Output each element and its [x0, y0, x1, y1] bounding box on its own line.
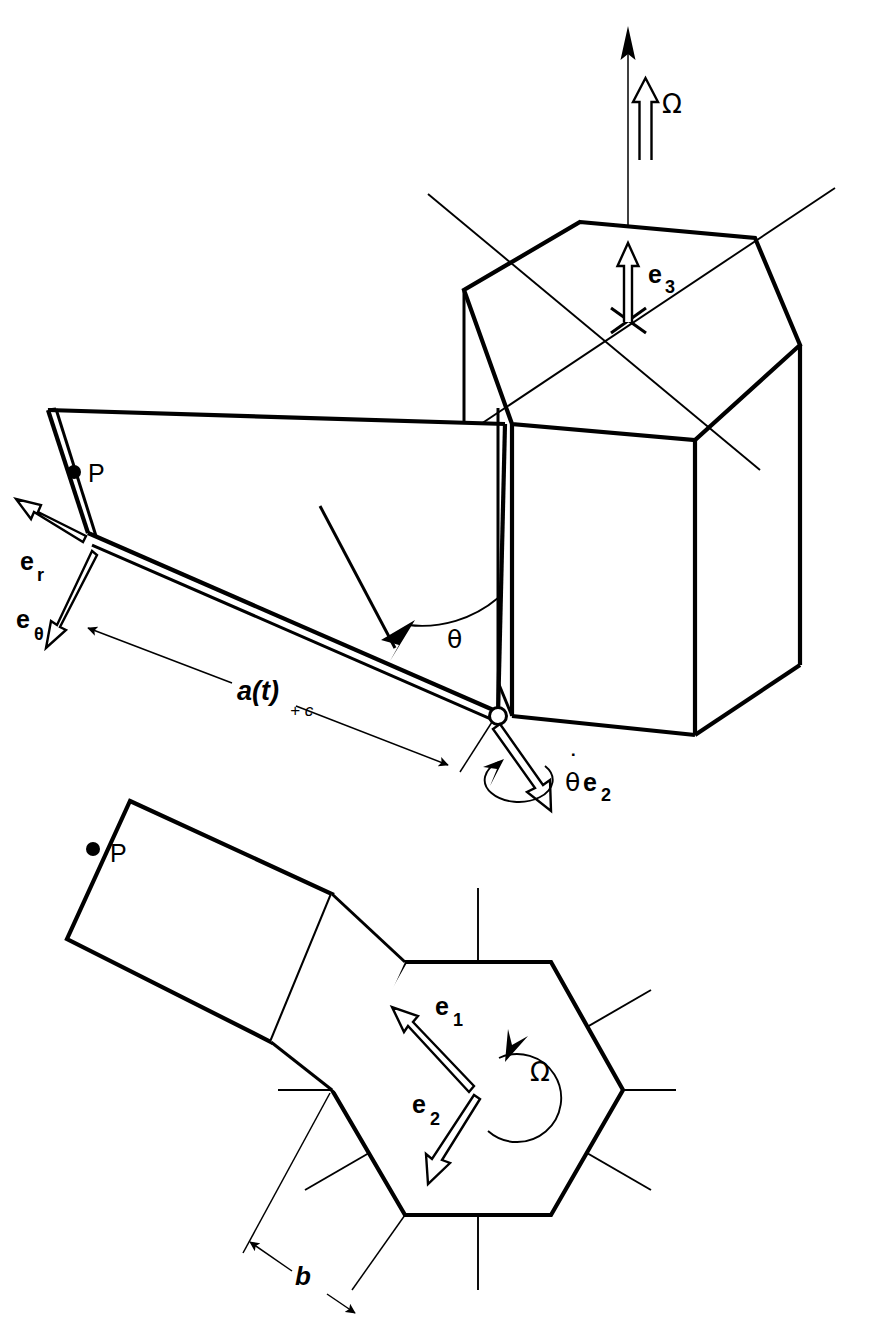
point-p-label-plan: P	[110, 839, 127, 867]
e2-subscript: 2	[430, 1109, 440, 1129]
panel-left-cap-top	[48, 409, 56, 410]
omega-vector-top	[633, 78, 658, 160]
e1-subscript: 1	[453, 1010, 463, 1030]
b-ext-line-right	[352, 1215, 405, 1290]
etheta-subscript: θ	[34, 624, 44, 644]
er-label: e	[20, 547, 34, 575]
er-vector	[16, 499, 86, 542]
etheta-vector	[46, 551, 97, 648]
panel-length-label: a(t)	[237, 676, 279, 706]
omega-label-top: Ω	[662, 89, 682, 119]
figure-root: Ω	[0, 0, 870, 1344]
e3-label: e	[648, 260, 662, 288]
omega-label-plan: Ω	[530, 1057, 550, 1087]
theta-dot-e-subscript: 2	[601, 785, 611, 805]
diagram-canvas: Ω	[0, 0, 870, 1344]
er-subscript: r	[37, 565, 44, 585]
perspective-view-group: Ω	[16, 26, 835, 811]
plan-view-group: P e 1 e 2 Ω	[67, 801, 676, 1313]
e3-subscript: 3	[665, 277, 675, 297]
hinge-axis-guide	[460, 722, 492, 772]
panel-length-sublabel: + c	[290, 701, 314, 720]
point-p-label-top: P	[88, 459, 105, 487]
point-p-marker-top	[67, 465, 81, 479]
e1-label: e	[435, 992, 449, 1020]
b-dimension-label: b	[295, 1261, 311, 1291]
etheta-label: e	[16, 605, 30, 633]
point-p-marker-plan	[86, 842, 100, 856]
theta-label: θ	[447, 625, 462, 654]
e2-label: e	[412, 1090, 426, 1118]
hinge-pivot	[490, 708, 507, 725]
theta-dot-e2-vector	[493, 724, 551, 811]
theta-dot-theta: θ	[565, 768, 580, 797]
theta-dot-e: e	[583, 768, 597, 796]
